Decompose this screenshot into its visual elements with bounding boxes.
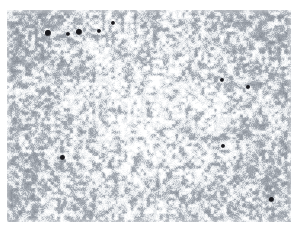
micrograph-texture-canvas	[7, 10, 291, 222]
micrograph-page	[0, 0, 298, 236]
micrograph-field	[7, 10, 291, 222]
